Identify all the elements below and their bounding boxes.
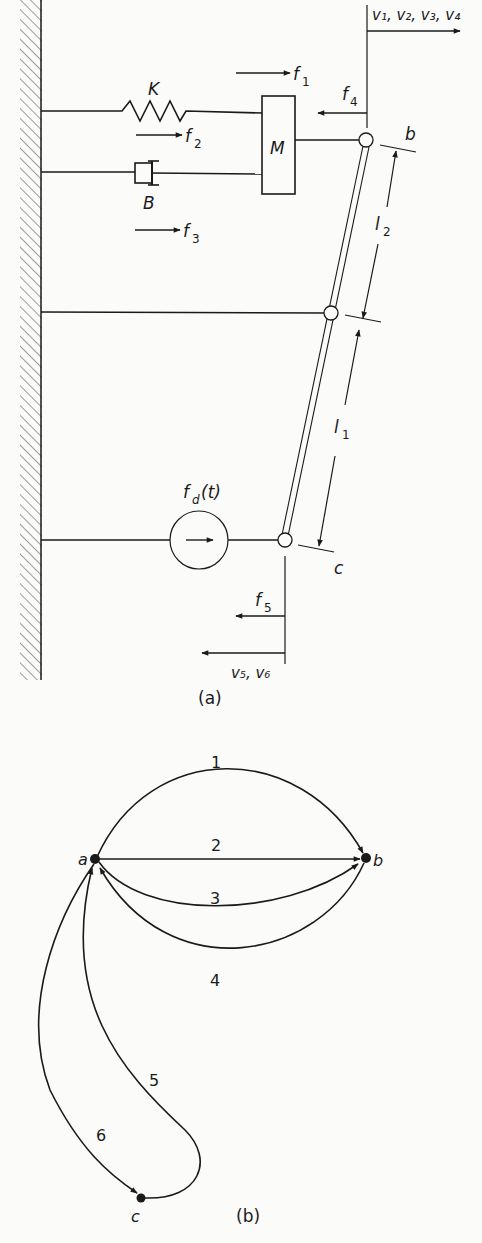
svg-text:f: f xyxy=(183,221,192,241)
svg-text:2: 2 xyxy=(211,836,221,855)
svg-text:d: d xyxy=(192,493,200,507)
svg-text:3: 3 xyxy=(192,232,200,246)
spring-label: K xyxy=(148,79,161,99)
svg-text:2: 2 xyxy=(194,137,202,151)
caption-b: (b) xyxy=(236,1206,260,1226)
velocity-top-label: v₁, v₂, v₃, v₄ xyxy=(372,6,460,24)
force-source: f d (t) xyxy=(41,482,278,569)
caption-a: (a) xyxy=(198,688,222,708)
ground-wall xyxy=(20,0,42,680)
mass-label: M xyxy=(270,138,285,158)
svg-text:b: b xyxy=(373,851,383,870)
node-c-label: c xyxy=(334,558,344,578)
figure-a: K B M f 1 f 2 f 3 xyxy=(20,0,460,708)
force-f2: f 2 xyxy=(136,126,202,151)
joint-c xyxy=(278,533,292,547)
dimension-l1: l 1 xyxy=(319,330,359,546)
svg-text:a: a xyxy=(78,850,88,869)
svg-text:c: c xyxy=(131,1207,140,1226)
node-b xyxy=(361,853,371,863)
joint-middle xyxy=(324,306,338,320)
joint-b xyxy=(359,133,373,147)
edge-labels: 1 2 3 4 5 6 xyxy=(96,753,221,1145)
svg-text:f: f xyxy=(185,126,194,146)
node-a xyxy=(90,854,100,864)
force-f3: f 3 xyxy=(135,221,200,246)
lever-bar xyxy=(282,146,369,536)
velocity-ref-top: v₁, v₂, v₃, v₄ f 4 xyxy=(318,5,460,128)
force-f1: f 1 xyxy=(236,64,310,89)
node-b-label: b xyxy=(405,124,416,144)
svg-text:5: 5 xyxy=(264,601,272,615)
svg-text:f: f xyxy=(183,482,192,502)
svg-text:5: 5 xyxy=(149,1071,159,1090)
spring-k xyxy=(41,101,262,121)
damper-b xyxy=(41,161,262,185)
svg-text:1: 1 xyxy=(211,753,221,772)
svg-text:6: 6 xyxy=(96,1126,106,1145)
force-f5: f xyxy=(255,590,264,610)
velocity-ref-bottom: f 5 v₅, v₆ xyxy=(202,556,285,682)
svg-text:3: 3 xyxy=(210,889,220,908)
svg-text:l: l xyxy=(334,417,339,437)
edge-1 xyxy=(97,769,363,857)
svg-text:1: 1 xyxy=(302,75,310,89)
figure-b xyxy=(39,769,364,1198)
edge-3 xyxy=(99,862,358,906)
svg-text:4: 4 xyxy=(350,95,358,109)
graph-nodes: a b c xyxy=(78,850,383,1226)
svg-text:4: 4 xyxy=(210,971,220,990)
svg-text:(t): (t) xyxy=(201,482,221,502)
node-c xyxy=(137,1194,146,1203)
figure-canvas: K B M f 1 f 2 f 3 xyxy=(0,0,482,1243)
dimension-l2: l 2 xyxy=(363,151,396,318)
svg-text:f: f xyxy=(293,64,302,84)
velocity-bottom-label: v₅, v₆ xyxy=(231,664,270,682)
svg-text:2: 2 xyxy=(383,225,391,239)
edge-6 xyxy=(39,864,137,1193)
svg-text:l: l xyxy=(375,214,380,234)
svg-text:1: 1 xyxy=(342,428,350,442)
damper-label: B xyxy=(143,193,155,213)
